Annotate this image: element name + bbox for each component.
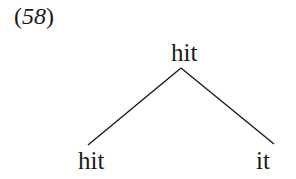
edge-root-to-right [181,68,274,144]
edge-root-to-left [88,68,181,145]
tree-root-node: hit [171,40,197,65]
tree-edges [0,0,296,179]
tree-right-child-node: it [256,148,270,173]
tree-left-child-node: hit [78,148,104,173]
